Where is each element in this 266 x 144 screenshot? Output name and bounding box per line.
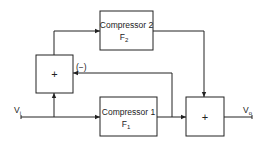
summer-right-plus: + — [202, 111, 208, 123]
summer-left-to-compressor2-wire — [54, 31, 100, 55]
compressor2-title: Compressor 2 — [100, 20, 154, 30]
summer-left-plus: + — [51, 68, 57, 80]
output-label: Vo — [243, 105, 253, 116]
compressor2-to-summer-right-wire — [153, 31, 204, 97]
input-label: Vi — [14, 105, 21, 116]
summer-left-block: + — [36, 55, 73, 93]
compressor1-title: Compressor 1 — [102, 107, 156, 117]
feedback-sign-label: (−) — [76, 62, 87, 72]
compressor1-block: Compressor 1 F1 — [100, 97, 157, 136]
summer-right-block: + — [186, 97, 224, 136]
block-diagram: Compressor 2 F2 Compressor 1 F1 + + (−) … — [0, 0, 266, 144]
compressor2-block: Compressor 2 F2 — [100, 11, 154, 50]
